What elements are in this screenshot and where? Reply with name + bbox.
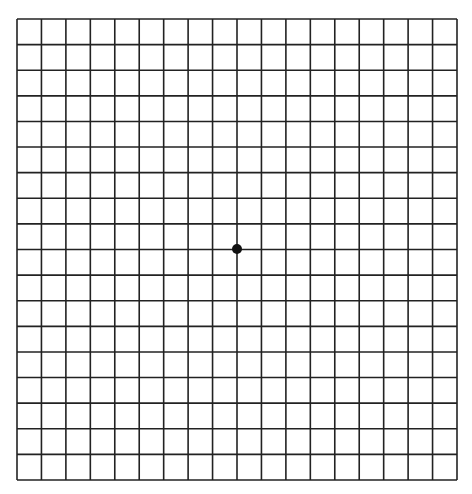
fixation-dot bbox=[232, 244, 242, 254]
amsler-grid bbox=[0, 0, 472, 494]
